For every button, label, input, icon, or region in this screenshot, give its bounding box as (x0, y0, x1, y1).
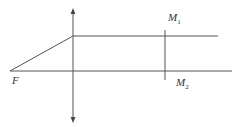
optics-diagram: F M1 M2 (0, 0, 236, 127)
mirror1-label: M1 (167, 11, 181, 26)
mirror1-label-sub: 1 (177, 18, 181, 26)
focus-label: F (11, 74, 19, 86)
mirror2-label: M2 (175, 76, 189, 91)
mirror2-label-sub: 2 (185, 83, 189, 91)
incident-ray (10, 36, 73, 71)
